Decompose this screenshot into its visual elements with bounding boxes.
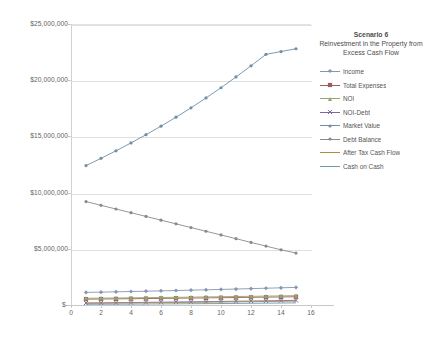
- x-axis-tick-label: 14: [273, 309, 289, 316]
- x-axis-tick-mark: [251, 305, 252, 308]
- data-point: [159, 289, 163, 293]
- data-point: [234, 287, 238, 291]
- legend-title-main: Scenario 6: [318, 30, 424, 39]
- legend-item-after-tax-cash-flow[interactable]: After Tax Cash Flow: [318, 146, 424, 160]
- x-axis-tick-mark: [191, 305, 192, 308]
- data-point: [219, 86, 222, 89]
- y-axis-tick-mark: [68, 193, 71, 194]
- x-axis-tick-label: 6: [153, 309, 169, 316]
- y-axis-tick-label: $20,000,000: [2, 76, 68, 83]
- data-point: [234, 75, 237, 78]
- series-layer: [71, 24, 311, 305]
- data-point: [174, 222, 177, 225]
- data-point: [99, 157, 102, 160]
- data-point: [204, 230, 207, 233]
- legend-item-label: NOI: [343, 95, 354, 102]
- data-point: [114, 149, 117, 152]
- x-axis-tick-label: 12: [243, 309, 259, 316]
- data-point: [144, 215, 147, 218]
- legend-item-label: Debt Balance: [343, 136, 381, 143]
- x-axis-tick-mark: [311, 305, 312, 308]
- y-axis-tick-mark: [68, 305, 71, 306]
- data-point: [129, 141, 132, 144]
- data-point: [129, 289, 133, 293]
- x-axis-tick-label: 10: [213, 309, 229, 316]
- data-point: [144, 133, 147, 136]
- data-point: [84, 164, 87, 167]
- data-point: [279, 248, 282, 251]
- data-point: [99, 290, 103, 294]
- legend-key-icon: [320, 134, 340, 144]
- data-point: [294, 251, 297, 254]
- legend-item-market-value[interactable]: Market Value: [318, 119, 424, 133]
- legend-title: Scenario 6 Reinvestment in the Property …: [318, 30, 424, 58]
- data-point: [219, 233, 222, 236]
- legend-item-noi-debt[interactable]: NOI-Debt: [318, 105, 424, 119]
- series-debt-balance: [84, 200, 297, 255]
- legend-key-icon: [320, 148, 340, 158]
- y-axis-tick-label: $15,000,000: [2, 132, 68, 139]
- legend-item-label: NOI-Debt: [343, 109, 370, 116]
- y-axis-tick-label: $25,000,000: [2, 20, 68, 27]
- y-axis-tick-mark: [68, 249, 71, 250]
- data-point: [144, 289, 148, 293]
- legend-key-icon: [320, 94, 340, 104]
- data-point: [264, 286, 268, 290]
- data-point: [249, 287, 253, 291]
- y-axis-tick-mark: [68, 24, 71, 25]
- legend-key-icon: [320, 121, 340, 131]
- data-point: [174, 288, 178, 292]
- x-axis-tick-mark: [161, 305, 162, 308]
- legend-item-label: After Tax Cash Flow: [343, 149, 400, 156]
- legend-item-total-expenses[interactable]: Total Expenses: [318, 78, 424, 92]
- data-point: [84, 290, 88, 294]
- data-point: [264, 245, 267, 248]
- x-axis-tick-mark: [131, 305, 132, 308]
- legend-items: IncomeTotal ExpensesNOINOI-DebtMarket Va…: [318, 65, 424, 174]
- legend-item-debt-balance[interactable]: Debt Balance: [318, 133, 424, 147]
- legend-item-cash-on-cash[interactable]: Cash on Cash: [318, 160, 424, 174]
- chart-root: $-$5,000,000$10,000,000$15,000,000$20,00…: [0, 0, 426, 354]
- data-point: [279, 286, 283, 290]
- data-point: [294, 285, 298, 289]
- legend-key-icon: [320, 80, 340, 90]
- data-point: [204, 96, 207, 99]
- y-axis-tick-mark: [68, 136, 71, 137]
- x-axis-tick-label: 2: [93, 309, 109, 316]
- x-axis-tick-mark: [71, 305, 72, 308]
- legend-key-icon: [320, 107, 340, 117]
- data-point: [234, 237, 237, 240]
- legend-item-label: Income: [343, 68, 364, 75]
- x-axis-tick-label: 8: [183, 309, 199, 316]
- data-point: [204, 288, 208, 292]
- x-axis-tick-label: 16: [303, 309, 319, 316]
- x-axis-tick-mark: [281, 305, 282, 308]
- data-point: [189, 288, 193, 292]
- legend-title-sub: Reinvestment in the Property from Excess…: [319, 40, 422, 56]
- data-point: [84, 200, 87, 203]
- data-point: [114, 290, 118, 294]
- x-axis-tick-mark: [101, 305, 102, 308]
- x-axis-tick-label: 0: [63, 309, 79, 316]
- y-axis-tick-label: $10,000,000: [2, 189, 68, 196]
- legend-item-noi[interactable]: NOI: [318, 92, 424, 106]
- legend-key-icon: [320, 66, 340, 76]
- data-point: [294, 47, 297, 50]
- data-point: [174, 116, 177, 119]
- data-point: [189, 226, 192, 229]
- legend-item-label: Cash on Cash: [343, 163, 384, 170]
- y-axis-tick-mark: [68, 80, 71, 81]
- y-axis-labels: $-$5,000,000$10,000,000$15,000,000$20,00…: [0, 0, 68, 354]
- data-point: [129, 211, 132, 214]
- data-point: [249, 64, 252, 67]
- data-point: [249, 241, 252, 244]
- data-point: [189, 106, 192, 109]
- data-point: [264, 53, 267, 56]
- legend: Scenario 6 Reinvestment in the Property …: [318, 30, 424, 173]
- data-point: [99, 204, 102, 207]
- series-market-value: [84, 47, 297, 167]
- data-point: [114, 207, 117, 210]
- legend-item-label: Total Expenses: [343, 82, 386, 89]
- legend-item-income[interactable]: Income: [318, 65, 424, 79]
- data-point: [219, 287, 223, 291]
